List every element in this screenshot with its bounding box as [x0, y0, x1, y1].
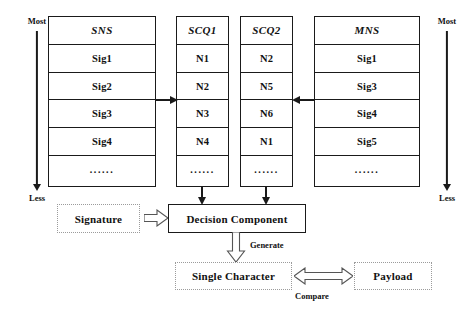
table-scq2: SCQ2 N2 N5 N6 N1 ...... [240, 16, 293, 187]
right-priority-axis: Most Less [428, 16, 466, 206]
diagram-canvas: Most Less Most Less SNS Sig1 Sig2 Sig3 S… [0, 0, 468, 311]
left-axis-arrowhead-icon [33, 184, 41, 191]
arrow-sns-to-scq1 [156, 95, 178, 105]
arrow-shaft [156, 99, 171, 101]
arrow-shaft [299, 99, 315, 101]
right-axis-shaft [446, 31, 448, 186]
left-axis-shaft [36, 31, 38, 186]
table-sns-row: Sig3 [49, 100, 155, 128]
hollow-arrow-down-icon [226, 232, 246, 263]
decision-component-box: Decision Component [168, 204, 306, 233]
arrow-scq2-to-decision [261, 187, 271, 205]
payload-box: Payload [354, 262, 432, 290]
table-scq2-row: N1 [241, 128, 292, 156]
right-axis-arrowhead-icon [443, 184, 451, 191]
signature-label: Signature [75, 213, 122, 225]
payload-label: Payload [373, 270, 412, 282]
table-mns-row: Sig4 [315, 100, 419, 128]
table-scq2-row: N5 [241, 73, 292, 101]
hollow-arrow-signature-to-decision [144, 209, 169, 227]
table-sns: SNS Sig1 Sig2 Sig3 Sig4 ...... [48, 16, 156, 187]
table-scq1-row: N3 [177, 100, 228, 128]
arrow-head-icon [292, 96, 300, 104]
table-scq1-row: N1 [177, 45, 228, 73]
table-mns-row: Sig1 [315, 45, 419, 73]
table-scq1: SCQ1 N1 N2 N3 N4 ...... [176, 16, 229, 187]
hollow-arrow-generate [226, 232, 246, 263]
table-scq1-row: N2 [177, 73, 228, 101]
table-sns-row: Sig4 [49, 128, 155, 156]
table-mns: MNS Sig1 Sig3 Sig4 Sig5 ...... [314, 16, 420, 187]
single-character-box: Single Character [175, 262, 292, 290]
table-scq1-header: SCQ1 [177, 17, 228, 45]
table-sns-row: Sig1 [49, 45, 155, 73]
table-sns-header: SNS [49, 17, 155, 45]
table-scq2-row: N2 [241, 45, 292, 73]
left-axis-most-label: Most [28, 16, 46, 26]
table-sns-row: ...... [49, 156, 155, 186]
right-axis-most-label: Most [438, 16, 456, 26]
right-axis-less-label: Less [439, 193, 455, 203]
table-scq2-header: SCQ2 [241, 17, 292, 45]
hollow-arrow-compare [294, 267, 353, 285]
arrow-mns-to-scq2 [292, 95, 315, 105]
decision-component-label: Decision Component [186, 213, 287, 225]
table-mns-row: Sig3 [315, 73, 419, 101]
left-axis-less-label: Less [29, 193, 45, 203]
single-character-label: Single Character [192, 270, 275, 282]
arrow-scq1-to-decision [197, 187, 207, 205]
table-mns-row: ...... [315, 156, 419, 186]
compare-label: Compare [295, 291, 329, 301]
table-scq1-row: ...... [177, 156, 228, 186]
signature-box: Signature [57, 204, 140, 233]
hollow-arrow-double-icon [294, 267, 353, 285]
generate-label: Generate [250, 240, 284, 250]
table-sns-row: Sig2 [49, 73, 155, 101]
table-scq2-row: ...... [241, 156, 292, 186]
table-scq1-row: N4 [177, 128, 228, 156]
table-mns-row: Sig5 [315, 128, 419, 156]
arrow-head-icon [170, 96, 178, 104]
hollow-arrow-right-icon [144, 209, 169, 227]
table-mns-header: MNS [315, 17, 419, 45]
table-scq2-row: N6 [241, 100, 292, 128]
